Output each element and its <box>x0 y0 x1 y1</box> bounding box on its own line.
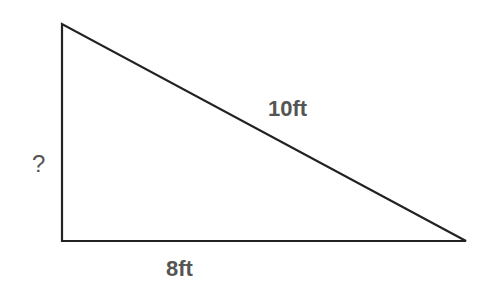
hypotenuse-label: 10ft <box>268 96 307 122</box>
base-label: 8ft <box>166 256 193 282</box>
height-label: ? <box>32 150 45 178</box>
triangle-diagram <box>0 0 492 296</box>
right-triangle <box>62 24 466 241</box>
